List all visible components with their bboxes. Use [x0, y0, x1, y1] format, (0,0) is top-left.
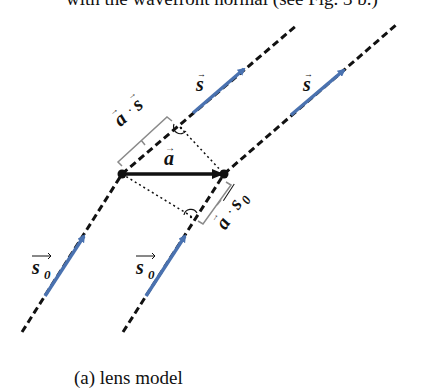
label-s-left: s → — [195, 69, 206, 95]
label-s0-left: s 0 — [31, 253, 51, 282]
svg-text:s: s — [135, 256, 144, 278]
label-s0-right: s 0 — [135, 253, 155, 282]
right-angle-marker-lower — [184, 209, 197, 215]
s0-vector-right — [146, 236, 185, 296]
projection-line-upper — [180, 127, 224, 174]
right-ray — [123, 25, 396, 332]
figure-caption-partial: (a) lens model — [74, 367, 183, 389]
svg-text:0: 0 — [44, 267, 51, 282]
point-a — [118, 170, 127, 179]
label-a-dot-s: a → · s → — [106, 88, 149, 130]
s0-vector-left — [45, 236, 84, 296]
svg-text:→: → — [165, 142, 175, 153]
label-s-right: s → — [302, 69, 313, 95]
left-ray — [22, 25, 297, 332]
svg-text:0: 0 — [148, 267, 155, 282]
svg-text:s: s — [31, 256, 40, 278]
svg-text:→: → — [197, 69, 206, 79]
right-angle-dot-lower — [190, 216, 192, 218]
s-vector-right — [291, 70, 344, 115]
svg-text:→: → — [304, 69, 313, 79]
label-a: a → — [164, 142, 175, 169]
point-b — [220, 170, 229, 179]
projection-line-lower — [122, 174, 191, 216]
right-angle-dot-upper — [180, 127, 182, 129]
